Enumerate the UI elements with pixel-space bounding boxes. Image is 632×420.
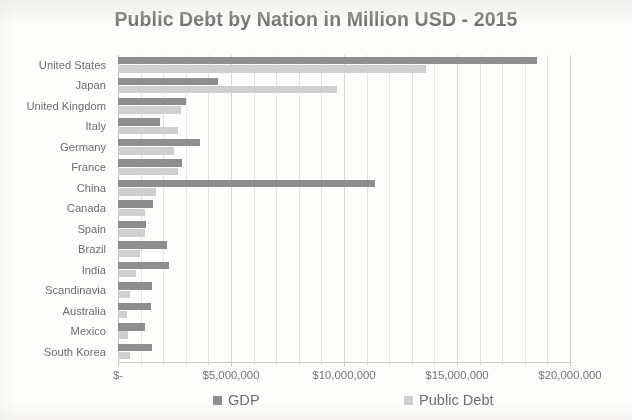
chart-bar-group <box>118 321 570 341</box>
bar-gdp[interactable] <box>118 241 167 248</box>
chart-legend: GDP Public Debt <box>0 392 632 414</box>
x-axis-tick <box>344 362 345 366</box>
x-axis-tick <box>254 362 255 365</box>
bar-gdp[interactable] <box>118 180 375 187</box>
bar-public-debt[interactable] <box>118 229 145 236</box>
x-axis-tick <box>186 362 187 365</box>
x-axis-tick-label: $5,000,000 <box>202 369 259 381</box>
legend-entry-public-debt[interactable]: Public Debt <box>404 392 494 408</box>
chart-bar-group <box>118 178 570 198</box>
chart-root: Public Debt by Nation in Million USD - 2… <box>0 0 632 420</box>
legend-label-public-debt: Public Debt <box>419 392 494 408</box>
chart-bar-group <box>118 280 570 300</box>
bar-public-debt[interactable] <box>118 352 130 359</box>
x-axis-tick <box>163 362 164 365</box>
y-axis-category-label: China <box>77 178 106 198</box>
legend-entry-gdp[interactable]: GDP <box>213 392 260 408</box>
bar-public-debt[interactable] <box>118 209 145 216</box>
y-axis-category-label: Spain <box>77 219 106 239</box>
y-axis-labels: United StatesJapanUnited KingdomItalyGer… <box>0 55 112 362</box>
chart-bar-group <box>118 342 570 362</box>
chart-bar-group <box>118 219 570 239</box>
y-axis-category-label: Brazil <box>78 239 106 259</box>
bar-gdp[interactable] <box>118 323 145 330</box>
x-axis-tick <box>525 362 526 365</box>
chart-bar-group <box>118 239 570 259</box>
x-axis-tick <box>231 362 232 366</box>
bar-gdp[interactable] <box>118 344 152 351</box>
chart-bar-group <box>118 116 570 136</box>
x-axis-tick <box>208 362 209 365</box>
bar-gdp[interactable] <box>118 200 153 207</box>
chart-bar-group <box>118 96 570 116</box>
x-axis-tick <box>367 362 368 365</box>
x-axis-tick <box>547 362 548 365</box>
y-axis-category-label: United Kingdom <box>26 96 106 116</box>
chart-bar-group <box>118 75 570 95</box>
x-axis-tick <box>457 362 458 366</box>
legend-swatch-gdp-icon <box>213 396 222 405</box>
x-axis-tick <box>321 362 322 365</box>
x-axis-tick-label: $15,000,000 <box>425 369 488 381</box>
y-axis-category-label: South Korea <box>44 342 106 362</box>
chart-bar-group <box>118 157 570 177</box>
bar-gdp[interactable] <box>118 159 182 166</box>
chart-bar-group <box>118 55 570 75</box>
chart-bar-group <box>118 301 570 321</box>
y-axis-category-label: Germany <box>60 137 106 157</box>
x-axis-tick <box>570 362 571 366</box>
bar-gdp[interactable] <box>118 139 200 146</box>
plot-area <box>118 55 570 362</box>
y-axis-category-label: Canada <box>67 198 106 218</box>
bar-public-debt[interactable] <box>118 86 337 93</box>
y-axis-category-label: Japan <box>76 75 106 95</box>
x-axis-tick <box>389 362 390 365</box>
bar-public-debt[interactable] <box>118 106 181 113</box>
bar-public-debt[interactable] <box>118 331 128 338</box>
x-axis-tick-label: $10,000,000 <box>312 369 375 381</box>
bar-gdp[interactable] <box>118 262 169 269</box>
bar-public-debt[interactable] <box>118 65 426 72</box>
x-axis-tick <box>434 362 435 365</box>
gridline-major <box>570 55 571 362</box>
x-axis-tick <box>276 362 277 365</box>
bar-public-debt[interactable] <box>118 270 136 277</box>
bar-gdp[interactable] <box>118 78 218 85</box>
legend-label-gdp: GDP <box>228 392 260 408</box>
y-axis-category-label: India <box>82 260 106 280</box>
x-axis-tick <box>299 362 300 365</box>
x-axis-tick-label: $- <box>113 369 123 381</box>
chart-title: Public Debt by Nation in Million USD - 2… <box>0 8 632 31</box>
y-axis-category-label: France <box>71 157 106 177</box>
x-axis-tick <box>118 362 119 366</box>
bar-public-debt[interactable] <box>118 168 178 175</box>
y-axis-category-label: Mexico <box>71 321 106 341</box>
y-axis-category-label: Australia <box>62 301 106 321</box>
x-axis-tick <box>502 362 503 365</box>
chart-bar-group <box>118 137 570 157</box>
y-axis-category-label: United States <box>39 55 106 75</box>
bar-gdp[interactable] <box>118 303 151 310</box>
x-axis-tick <box>480 362 481 365</box>
bar-public-debt[interactable] <box>118 147 174 154</box>
bar-public-debt[interactable] <box>118 291 130 298</box>
chart-bar-group <box>118 260 570 280</box>
bar-gdp[interactable] <box>118 221 146 228</box>
bar-public-debt[interactable] <box>118 250 140 257</box>
bar-gdp[interactable] <box>118 98 186 105</box>
x-axis-tick-label: $20,000,000 <box>538 369 601 381</box>
bar-gdp[interactable] <box>118 282 152 289</box>
bar-gdp[interactable] <box>118 118 160 125</box>
bar-public-debt[interactable] <box>118 311 127 318</box>
x-axis-tick <box>141 362 142 365</box>
y-axis-category-label: Italy <box>85 116 106 136</box>
bar-gdp[interactable] <box>118 57 537 64</box>
bar-public-debt[interactable] <box>118 127 178 134</box>
x-axis-tick <box>412 362 413 365</box>
legend-swatch-public-debt-icon <box>404 396 413 405</box>
bar-public-debt[interactable] <box>118 188 156 195</box>
y-axis-category-label: Scandinavia <box>45 280 106 300</box>
chart-bar-group <box>118 198 570 218</box>
